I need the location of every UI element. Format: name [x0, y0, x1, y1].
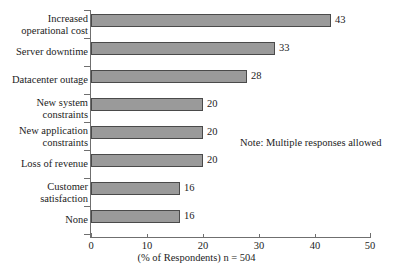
x-axis-tick: [91, 233, 92, 238]
x-axis-tick: [370, 233, 371, 238]
bar-value-0: 43: [335, 14, 346, 25]
x-axis-tick: [315, 234, 316, 238]
plot-area: Increased operational cost Server downti…: [0, 0, 393, 267]
x-axis-tick: [259, 234, 260, 238]
bar-4: [91, 126, 203, 139]
bar-value-5: 20: [207, 154, 218, 165]
category-label-7: None: [65, 214, 88, 226]
category-label-3: New system constraints: [36, 97, 88, 120]
category-label-5: Loss of revenue: [21, 158, 88, 170]
bar-value-3: 20: [207, 98, 218, 109]
y-axis-tick: [84, 234, 91, 235]
x-tick-label-3: 30: [254, 240, 265, 251]
category-label-0: Increased operational cost: [21, 13, 88, 36]
bar-0: [91, 14, 331, 27]
y-axis-tick: [84, 178, 91, 179]
y-axis-tick: [84, 150, 91, 151]
x-axis-tick: [203, 234, 204, 238]
bar-value-1: 33: [279, 42, 290, 53]
bar-6: [91, 182, 180, 195]
bar-2: [91, 70, 247, 83]
x-tick-label-2: 20: [198, 240, 209, 251]
bar-7: [91, 210, 180, 223]
y-axis-tick: [84, 66, 91, 67]
category-label-6: Customer satisfaction: [40, 181, 88, 204]
bar-3: [91, 98, 203, 111]
x-axis-tick: [147, 234, 148, 238]
bar-value-7: 16: [184, 210, 195, 221]
category-label-4: New application constraints: [19, 125, 88, 148]
x-tick-label-0: 0: [88, 240, 93, 251]
category-label-1: Server downtime: [16, 46, 88, 58]
y-axis-tick: [84, 122, 91, 123]
bar-value-4: 20: [207, 126, 218, 137]
chart-note: Note: Multiple responses allowed: [240, 137, 381, 148]
y-axis-tick: [84, 38, 91, 39]
bar-1: [91, 42, 275, 55]
x-axis-line: [90, 237, 371, 238]
y-axis-tick: [84, 206, 91, 207]
x-tick-label-1: 10: [142, 240, 153, 251]
y-axis-tick: [84, 94, 91, 95]
y-axis-tick: [84, 10, 91, 11]
bar-value-2: 28: [251, 70, 262, 81]
x-axis-title: (% of Respondents) n = 504: [0, 252, 393, 263]
x-tick-label-4: 40: [310, 240, 321, 251]
bar-chart-figure: Increased operational cost Server downti…: [0, 0, 393, 267]
category-label-2: Datacenter outage: [12, 74, 88, 86]
x-tick-label-5: 50: [365, 240, 376, 251]
bar-value-6: 16: [184, 182, 195, 193]
bar-5: [91, 154, 203, 167]
